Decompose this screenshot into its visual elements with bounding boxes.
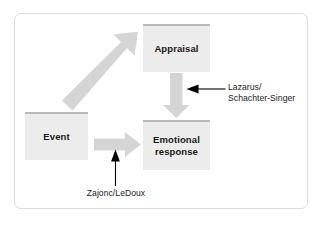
node-emotional-response: Emotional response bbox=[143, 120, 210, 170]
annotation-zajonc: Zajonc/LeDoux bbox=[73, 188, 159, 199]
annotation-lazarus: Lazarus/ Schachter-Singer bbox=[228, 82, 295, 104]
node-appraisal: Appraisal bbox=[143, 24, 210, 72]
emotion-theory-diagram: Appraisal Event Emotional response Lazar… bbox=[0, 0, 328, 226]
node-appraisal-label: Appraisal bbox=[151, 43, 201, 55]
node-event-label: Event bbox=[40, 131, 72, 143]
node-event: Event bbox=[25, 112, 88, 160]
node-emotional-response-label: Emotional response bbox=[150, 134, 203, 158]
